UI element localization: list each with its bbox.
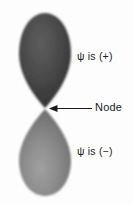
upper-lobe <box>19 13 71 108</box>
orbital-node-figure: ψ is (+) Node ψ is (−) <box>0 0 133 204</box>
upper-lobe-sign-label: ψ is (+) <box>77 50 113 62</box>
lower-lobe-sign-label: ψ is (−) <box>77 145 113 157</box>
lower-lobe <box>19 109 71 196</box>
node-arrow <box>49 105 92 112</box>
node-label: Node <box>95 101 122 113</box>
